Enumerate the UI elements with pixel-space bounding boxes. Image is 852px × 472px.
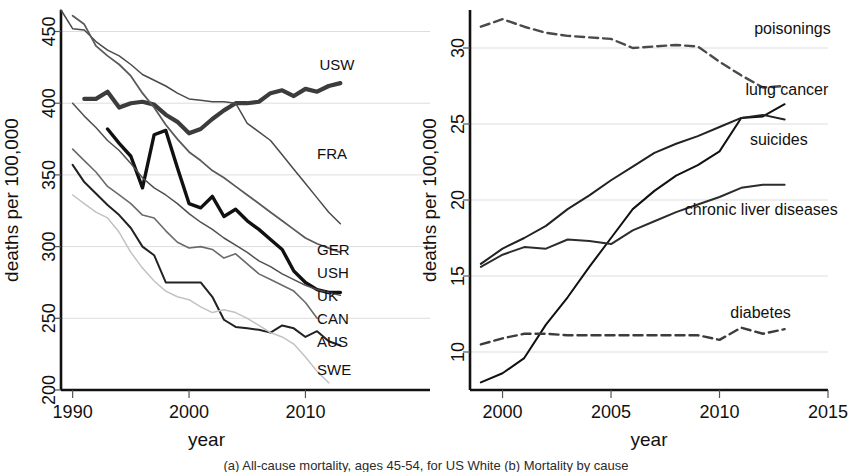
y-tick-label: 15 <box>448 266 468 286</box>
y-tick-label: 250 <box>39 303 59 333</box>
figure-container: 200250300350400450199020002010yeardeaths… <box>0 0 852 472</box>
x-tick-label: 1990 <box>53 402 93 422</box>
series-label-uk: UK <box>317 287 338 304</box>
y-tick-label: 200 <box>39 375 59 405</box>
series-label-chronic-liver-diseases: chronic liver diseases <box>685 201 838 218</box>
series-label-can: CAN <box>317 310 349 327</box>
x-tick-label: 2015 <box>808 402 848 422</box>
y-tick-label: 450 <box>39 16 59 46</box>
y-tick-label: 30 <box>448 38 468 58</box>
chart-panel-left: 200250300350400450199020002010yeardeaths… <box>0 0 430 472</box>
series-line-poisonings <box>481 104 785 382</box>
y-axis-title: deaths per 100,000 <box>422 118 440 282</box>
series-label-diabetes: diabetes <box>730 304 791 321</box>
series-label-suicides: suicides <box>750 131 808 148</box>
series-label-fra: FRA <box>317 145 347 162</box>
chart-panel-right: 10152025302000200520102015yeardeaths per… <box>422 0 852 472</box>
y-tick-label: 400 <box>39 88 59 118</box>
y-tick-label: 25 <box>448 114 468 134</box>
series-label-ger: GER <box>317 241 350 258</box>
series-line-chronic-liver-diseases <box>481 185 785 267</box>
y-tick-label: 300 <box>39 232 59 262</box>
series-line-fra <box>61 10 340 224</box>
x-tick-label: 2000 <box>169 402 209 422</box>
right-chart-svg: 10152025302000200520102015yeardeaths per… <box>422 0 852 472</box>
series-line-diabetes <box>481 328 785 345</box>
left-chart-svg: 200250300350400450199020002010yeardeaths… <box>0 0 430 472</box>
x-tick-label: 2010 <box>699 402 739 422</box>
x-axis-title: year <box>631 429 669 450</box>
x-tick-label: 2005 <box>591 402 631 422</box>
series-label-poisonings: poisonings <box>754 20 831 37</box>
series-line-usw <box>84 83 340 133</box>
y-tick-label: 20 <box>448 190 468 210</box>
series-line-uk <box>73 103 341 295</box>
y-tick-label: 350 <box>39 160 59 190</box>
series-label-lung-cancer: lung cancer <box>746 81 829 98</box>
series-label-ush: USH <box>317 264 349 281</box>
series-label-aus: AUS <box>317 333 348 350</box>
x-tick-label: 2000 <box>483 402 523 422</box>
x-tick-label: 2010 <box>285 402 325 422</box>
x-axis-title: year <box>188 429 226 450</box>
y-tick-label: 10 <box>448 342 468 362</box>
series-label-usw: USW <box>319 56 355 73</box>
series-line-lung-cancer <box>481 19 785 87</box>
figure-caption: (a) All-cause mortality, ages 45-54, for… <box>0 458 852 472</box>
y-axis-title: deaths per 100,000 <box>1 118 22 282</box>
series-label-swe: SWE <box>317 361 351 378</box>
